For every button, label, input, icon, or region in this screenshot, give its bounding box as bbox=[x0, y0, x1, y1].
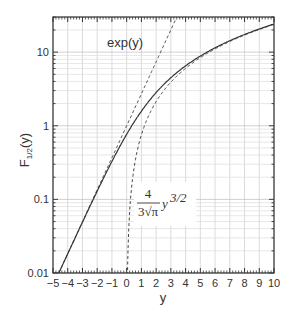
y-tick-label: 0.1 bbox=[34, 193, 49, 205]
x-tick-label: 7 bbox=[227, 277, 233, 289]
x-tick-label: −1 bbox=[106, 277, 119, 289]
x-tick-label: 2 bbox=[153, 277, 159, 289]
x-tick-label: 1 bbox=[138, 277, 144, 289]
x-tick-label: 10 bbox=[268, 277, 280, 289]
y-axis-label: F1/2(y) bbox=[17, 133, 34, 167]
annotation-exp: exp(y) bbox=[107, 35, 143, 50]
svg-text:3/2: 3/2 bbox=[169, 190, 187, 205]
svg-text:F1/2(y): F1/2(y) bbox=[17, 133, 34, 167]
x-tick-labels: −5−4−3−2−1012345678910 bbox=[47, 277, 280, 289]
y-tick-label: 1 bbox=[43, 120, 49, 132]
x-axis-label: y bbox=[160, 290, 167, 305]
series-0 bbox=[59, 24, 274, 273]
grid-lines bbox=[53, 17, 274, 273]
annotation-power-law: 4 3√π y 3/2 bbox=[134, 182, 196, 226]
fermi-dirac-integral-chart: −5−4−3−2−1012345678910 0.010.1110 y F1/2… bbox=[0, 0, 294, 320]
x-tick-label: −4 bbox=[61, 277, 74, 289]
y-tick-label: 0.01 bbox=[28, 267, 49, 279]
svg-text:4: 4 bbox=[145, 186, 152, 201]
x-tick-label: 8 bbox=[241, 277, 247, 289]
y-tick-label: 10 bbox=[37, 46, 49, 58]
x-tick-label: −3 bbox=[76, 277, 89, 289]
x-tick-label: 9 bbox=[256, 277, 262, 289]
svg-text:3√π: 3√π bbox=[138, 204, 159, 219]
x-tick-label: −2 bbox=[91, 277, 104, 289]
x-tick-label: 0 bbox=[124, 277, 130, 289]
svg-text:y: y bbox=[160, 196, 168, 211]
x-tick-label: 4 bbox=[183, 277, 189, 289]
x-tick-label: 5 bbox=[197, 277, 203, 289]
x-tick-label: 3 bbox=[168, 277, 174, 289]
x-tick-label: 6 bbox=[212, 277, 218, 289]
data-series bbox=[59, 20, 274, 303]
